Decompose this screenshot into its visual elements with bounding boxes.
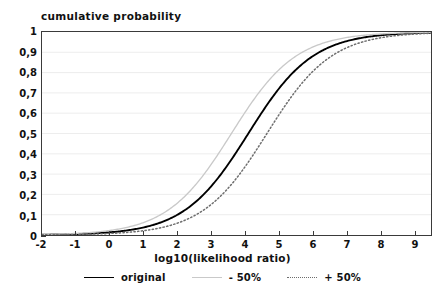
x-tick-label: 9 [412, 239, 419, 250]
x-tick-label: 8 [378, 239, 385, 250]
x-tick-label: 6 [310, 239, 317, 250]
y-axis-tick-labels: 00,10,20,30,40,50,60,70,80,91 [0, 31, 37, 236]
legend-label: + 50% [324, 272, 361, 283]
y-tick-label: 0,8 [19, 67, 37, 78]
x-tick-label: 2 [174, 239, 181, 250]
chart-root: cumulative probability 00,10,20,30,40,50… [0, 0, 445, 301]
y-tick-mark [41, 236, 46, 237]
x-tick-label: 7 [344, 239, 351, 250]
y-tick-label: 0,4 [19, 149, 37, 160]
x-tick-label: 1 [140, 239, 147, 250]
y-tick-label: 0,6 [19, 108, 37, 119]
y-tick-label: 0,1 [19, 210, 37, 221]
chart-title: cumulative probability [41, 10, 181, 22]
y-tick-label: 0,9 [19, 46, 37, 57]
legend-label: - 50% [229, 272, 262, 283]
x-tick-mark [245, 231, 246, 236]
x-tick-mark [415, 231, 416, 236]
x-tick-mark [313, 231, 314, 236]
legend-label: original [121, 272, 166, 283]
x-tick-mark [109, 231, 110, 236]
plot-area [41, 31, 432, 236]
y-tick-label: 0,2 [19, 190, 37, 201]
legend-item[interactable]: - 50% [192, 272, 262, 283]
legend-item[interactable]: + 50% [287, 272, 361, 283]
x-tick-label: 0 [106, 239, 113, 250]
curve-layer [42, 32, 431, 235]
x-tick-label: -1 [69, 239, 80, 250]
x-tick-label: 3 [208, 239, 215, 250]
chart-legend: original- 50%+ 50% [0, 272, 445, 283]
y-tick-label: 0,5 [19, 128, 37, 139]
legend-swatch-light [192, 277, 222, 278]
x-tick-mark [347, 231, 348, 236]
x-tick-label: 5 [276, 239, 283, 250]
legend-swatch-dotted [287, 277, 317, 278]
x-tick-label: 4 [242, 239, 249, 250]
y-tick-label: 0,7 [19, 87, 37, 98]
y-tick-label: 0,3 [19, 169, 37, 180]
legend-swatch-solid [84, 277, 114, 278]
legend-item[interactable]: original [84, 272, 166, 283]
x-tick-mark [41, 231, 42, 236]
x-axis-title: log10(likelihood ratio) [0, 252, 445, 264]
x-tick-mark [211, 231, 212, 236]
x-tick-mark [143, 231, 144, 236]
x-tick-mark [177, 231, 178, 236]
x-tick-mark [279, 231, 280, 236]
x-tick-mark [381, 231, 382, 236]
x-tick-mark [75, 231, 76, 236]
x-tick-label: -2 [35, 239, 46, 250]
y-tick-label: 1 [30, 26, 37, 37]
